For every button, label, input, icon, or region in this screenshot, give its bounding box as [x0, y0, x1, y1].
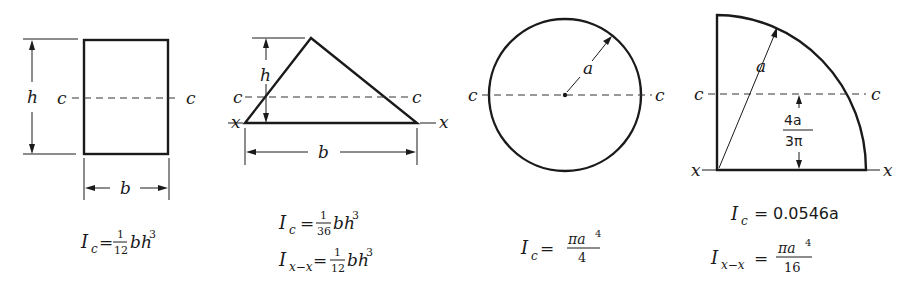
centroid-label-left: c — [57, 88, 67, 108]
svg-text:I: I — [278, 212, 287, 233]
svg-text:4: 4 — [805, 237, 811, 248]
height-label: h — [27, 87, 38, 107]
svg-text:c: c — [741, 214, 748, 228]
svg-text:1: 1 — [334, 246, 341, 259]
centroid-label-right: c — [412, 87, 422, 107]
base-label: b — [120, 178, 131, 198]
svg-text:16: 16 — [784, 260, 801, 275]
centroid-label-right: c — [871, 84, 881, 104]
svg-text:πa: πa — [777, 240, 796, 256]
moment-of-inertia-diagram: h c c b I c = 1 12 bh 3 — [0, 0, 919, 288]
height-label: h — [260, 65, 271, 85]
axis-label-left: x — [231, 112, 241, 132]
svg-text:1: 1 — [117, 228, 124, 241]
base-dimension: b — [84, 158, 169, 200]
centroid-offset-dimension: 4a 3π — [783, 95, 813, 169]
formula-ic: I c = πa 4 4 — [520, 228, 601, 265]
svg-text:3: 3 — [366, 246, 373, 259]
rectangle-figure: h c c b I c = 1 12 bh 3 — [23, 39, 196, 257]
svg-text:x−x: x−x — [721, 258, 745, 272]
svg-text:c: c — [91, 242, 98, 256]
svg-text:=: = — [313, 250, 327, 270]
quarter-circle-figure: c c x x a 4a 3π I c = 0.0546a — [691, 15, 893, 275]
height-dimension: h — [27, 40, 38, 154]
svg-text:12: 12 — [114, 244, 128, 257]
axis-label-right: x — [439, 112, 449, 132]
svg-text:=: = — [300, 213, 314, 233]
svg-text:=: = — [754, 203, 768, 223]
radius-dimension: a — [567, 36, 612, 92]
svg-text:I: I — [710, 247, 719, 268]
centroid-label-right: c — [655, 85, 665, 105]
rectangle-shape — [84, 40, 168, 154]
svg-text:=: = — [540, 238, 554, 258]
formula-ic: I c = 1 12 bh 3 — [80, 228, 156, 257]
svg-text:I: I — [520, 237, 529, 258]
svg-text:c: c — [531, 249, 538, 263]
svg-text:1: 1 — [320, 209, 327, 222]
svg-text:=: = — [99, 232, 113, 252]
radius-label: a — [756, 56, 766, 76]
formula-ic: I c = 0.0546a — [730, 203, 839, 228]
triangle-figure: h c c x x b I c = 1 36 bh 3 — [228, 38, 449, 275]
svg-text:I: I — [278, 249, 287, 270]
circle-figure: c c a I c = πa 4 4 — [468, 19, 665, 265]
svg-text:πa: πa — [567, 231, 586, 247]
base-dimension: b — [245, 128, 417, 165]
svg-text:4a: 4a — [784, 112, 802, 128]
svg-text:4: 4 — [578, 250, 586, 265]
radius-dimension: a — [719, 27, 777, 168]
formula-ixx: I x−x = 1 12 bh 3 — [278, 246, 373, 275]
svg-text:=: = — [754, 248, 768, 268]
center-point — [563, 93, 567, 97]
svg-text:I: I — [730, 203, 739, 224]
svg-text:4: 4 — [595, 228, 601, 239]
axis-label-left: x — [691, 160, 701, 180]
axis-label-right: x — [883, 160, 893, 180]
svg-text:0.0546a: 0.0546a — [773, 204, 839, 223]
svg-text:3: 3 — [352, 209, 359, 222]
svg-text:x−x: x−x — [289, 260, 313, 274]
height-dimension: h — [260, 38, 271, 123]
formula-ic: I c = 1 36 bh 3 — [278, 209, 359, 238]
centroid-label-left: c — [468, 85, 478, 105]
svg-text:3π: 3π — [785, 133, 803, 149]
svg-text:c: c — [289, 223, 296, 237]
svg-text:I: I — [80, 231, 89, 252]
svg-text:36: 36 — [317, 225, 331, 238]
centroid-label-left: c — [233, 87, 243, 107]
base-label: b — [318, 142, 329, 162]
svg-text:3: 3 — [149, 228, 156, 241]
svg-text:12: 12 — [331, 262, 345, 275]
formula-ixx: I x−x = πa 4 16 — [710, 237, 812, 275]
centroid-label-left: c — [694, 84, 704, 104]
centroid-label-right: c — [186, 88, 196, 108]
radius-label: a — [583, 58, 593, 78]
